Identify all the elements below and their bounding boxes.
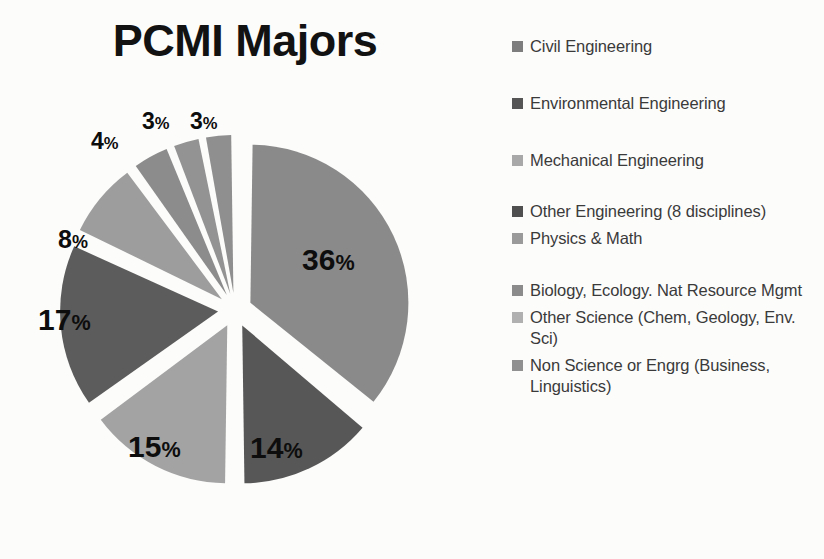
legend-spacer — [512, 57, 822, 93]
pie-slices — [60, 135, 408, 483]
legend-item-other-science[interactable]: Other Science (Chem, Geology, Env. Sci) — [512, 307, 822, 349]
legend-swatch-icon — [512, 206, 523, 217]
legend-item-label: Other Engineering (8 disciplines) — [530, 201, 766, 222]
percent-sign: % — [72, 232, 88, 252]
legend-item-label: Mechanical Engineering — [530, 150, 704, 171]
legend-item-label: Non Science or Engrg (Business, Linguist… — [530, 355, 822, 397]
chart-page: PCMI Majors 36%14%15%17%8%4%3%3% Civil E… — [0, 0, 824, 559]
legend-swatch-icon — [512, 41, 523, 52]
page-title: PCMI Majors — [20, 16, 470, 66]
pie-slice-value: 15 — [128, 430, 161, 463]
legend-item-label: Other Science (Chem, Geology, Env. Sci) — [530, 307, 822, 349]
pie-slice-value: 8 — [58, 225, 72, 253]
legend-item-label: Physics & Math — [530, 228, 642, 249]
legend-swatch-icon — [512, 285, 523, 296]
percent-sign: % — [283, 438, 302, 463]
legend-swatch-icon — [512, 155, 523, 166]
pie-slice-value: 3 — [190, 108, 203, 134]
legend-item-environmental-engineering[interactable]: Environmental Engineering — [512, 93, 822, 114]
legend: Civil Engineering Environmental Engineer… — [512, 36, 822, 397]
pie-slice-value-label: 36% — [302, 245, 355, 275]
percent-sign: % — [335, 250, 354, 275]
percent-sign: % — [203, 114, 218, 133]
legend-item-non-science[interactable]: Non Science or Engrg (Business, Linguist… — [512, 355, 822, 397]
legend-item-label: Civil Engineering — [530, 36, 652, 57]
legend-swatch-icon — [512, 360, 523, 371]
legend-swatch-icon — [512, 312, 523, 323]
legend-item-physics-math[interactable]: Physics & Math — [512, 228, 822, 249]
legend-spacer — [512, 114, 822, 150]
legend-swatch-icon — [512, 98, 523, 109]
pie-slice-value: 14 — [250, 431, 283, 464]
pie-slice-value-label: 8% — [58, 227, 88, 252]
legend-item-label: Environmental Engineering — [530, 93, 726, 114]
pie-slice-value-label: 3% — [190, 110, 218, 133]
pie-slice-value: 17 — [38, 303, 71, 336]
legend-swatch-icon — [512, 233, 523, 244]
pie-slice-value-label: 4% — [91, 130, 119, 153]
percent-sign: % — [155, 114, 170, 133]
pie-slice-value-label: 15% — [128, 432, 181, 462]
legend-spacer — [512, 250, 822, 280]
percent-sign: % — [71, 310, 90, 335]
percent-sign: % — [161, 437, 180, 462]
pie-slice-value: 36 — [302, 243, 335, 276]
legend-item-biology-ecology[interactable]: Biology, Ecology. Nat Resource Mgmt — [512, 280, 822, 301]
legend-spacer — [512, 171, 822, 201]
legend-item-label: Biology, Ecology. Nat Resource Mgmt — [530, 280, 802, 301]
pie-slice-value: 4 — [91, 128, 104, 154]
legend-item-other-engineering[interactable]: Other Engineering (8 disciplines) — [512, 201, 822, 222]
pie-slice-value-label: 14% — [250, 433, 303, 463]
percent-sign: % — [104, 134, 119, 153]
pie-slice-value-label: 17% — [38, 305, 91, 335]
pie-slice-value: 3 — [142, 108, 155, 134]
legend-item-civil-engineering[interactable]: Civil Engineering — [512, 36, 822, 57]
pie-slice-value-label: 3% — [142, 110, 170, 133]
pie-chart: 36%14%15%17%8%4%3%3% — [0, 85, 470, 555]
legend-item-mechanical-engineering[interactable]: Mechanical Engineering — [512, 150, 822, 171]
